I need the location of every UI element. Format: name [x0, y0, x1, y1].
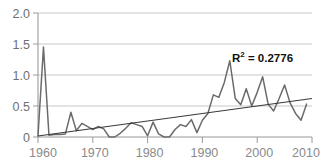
line-chart-plot: 2.0 1.5 1.0 0.5 0 1960 1970 1980 1990 20…: [0, 0, 323, 164]
x-tick-labels: 1960 1970 1980 1990 2000 2010: [29, 146, 320, 160]
chart-figure: 2.0 1.5 1.0 0.5 0 1960 1970 1980 1990 20…: [0, 0, 323, 164]
x-tick-label-1990: 1990: [190, 146, 218, 160]
y-tick-labels: 2.0 1.5 1.0 0.5 0: [13, 7, 30, 145]
x-tick-label-2010: 2010: [292, 146, 320, 160]
y-tick-label-2-0: 2.0: [13, 7, 30, 21]
x-tick-label-1980: 1980: [136, 146, 164, 160]
x-tick-label-2000: 2000: [245, 146, 273, 160]
y-axis: [33, 13, 38, 137]
x-axis: [38, 137, 312, 143]
x-tick-label-1960: 1960: [29, 146, 57, 160]
r-squared-annotation: R2 = 0.2776: [232, 50, 293, 64]
x-tick-label-1970: 1970: [81, 146, 109, 160]
y-tick-label-0-5: 0.5: [13, 100, 30, 114]
y-tick-label-1-5: 1.5: [13, 38, 30, 52]
r-squared-value: = 0.2776: [245, 52, 293, 64]
y-tick-label-0: 0: [23, 131, 30, 145]
y-tick-label-1-0: 1.0: [13, 69, 30, 83]
